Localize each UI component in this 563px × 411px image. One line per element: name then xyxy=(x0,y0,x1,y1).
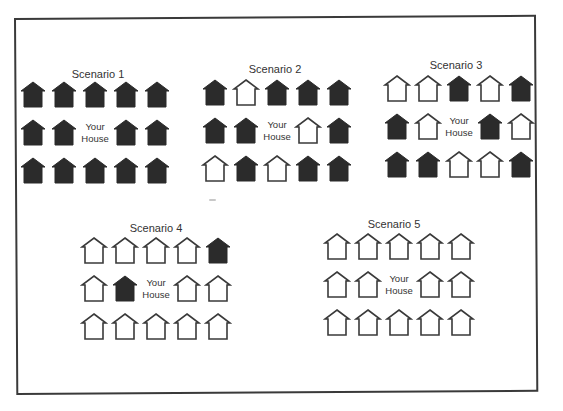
empty-house-icon xyxy=(507,112,535,140)
empty-house-icon xyxy=(142,236,170,264)
empty-house-icon xyxy=(385,308,413,336)
empty-house-icon xyxy=(416,270,444,298)
empty-house-icon xyxy=(323,232,351,260)
filled-house-icon xyxy=(414,150,442,178)
empty-house-icon xyxy=(476,150,504,178)
empty-house-icon xyxy=(416,308,444,336)
empty-house-icon xyxy=(263,154,291,182)
empty-house-icon xyxy=(80,236,108,264)
scenario-title: Scenario 2 xyxy=(249,63,302,75)
filled-house-icon xyxy=(294,154,322,182)
scenario-title: Scenario 1 xyxy=(72,68,125,80)
empty-house-icon xyxy=(445,150,473,178)
empty-house-icon xyxy=(354,232,382,260)
filled-house-icon xyxy=(325,154,353,182)
filled-house-icon xyxy=(143,118,171,146)
empty-house-icon xyxy=(447,308,475,336)
scenario-title: Scenario 3 xyxy=(430,59,483,71)
filled-house-icon xyxy=(232,116,260,144)
filled-house-icon xyxy=(111,274,139,302)
filled-house-icon xyxy=(81,156,109,184)
empty-house-icon xyxy=(173,312,201,340)
your-house-label: YourHouse xyxy=(139,277,173,301)
empty-house-icon xyxy=(111,236,139,264)
empty-house-icon xyxy=(173,274,201,302)
empty-house-icon xyxy=(80,274,108,302)
empty-house-icon xyxy=(201,154,229,182)
filled-house-icon xyxy=(50,156,78,184)
filled-house-icon xyxy=(204,236,232,264)
filled-house-icon xyxy=(325,78,353,106)
your-house-label: YourHouse xyxy=(78,121,112,145)
empty-house-icon xyxy=(385,232,413,260)
empty-house-icon xyxy=(323,308,351,336)
filled-house-icon xyxy=(383,150,411,178)
filled-house-icon xyxy=(50,80,78,108)
empty-house-icon xyxy=(414,112,442,140)
empty-house-icon xyxy=(447,232,475,260)
filled-house-icon xyxy=(112,156,140,184)
filled-house-icon xyxy=(445,74,473,102)
filled-house-icon xyxy=(325,116,353,144)
filled-house-icon xyxy=(201,78,229,106)
filled-house-icon xyxy=(19,156,47,184)
filled-house-icon xyxy=(143,156,171,184)
empty-house-icon xyxy=(476,74,504,102)
filled-house-icon xyxy=(50,118,78,146)
your-house-label: YourHouse xyxy=(442,115,476,139)
empty-house-icon xyxy=(323,270,351,298)
empty-house-icon xyxy=(383,74,411,102)
empty-house-icon xyxy=(111,312,139,340)
empty-house-icon xyxy=(294,116,322,144)
empty-house-icon xyxy=(80,312,108,340)
empty-house-icon xyxy=(354,308,382,336)
empty-house-icon xyxy=(204,274,232,302)
filled-house-icon xyxy=(476,112,504,140)
filled-house-icon xyxy=(294,78,322,106)
empty-house-icon xyxy=(447,270,475,298)
empty-house-icon xyxy=(142,312,170,340)
empty-house-icon xyxy=(173,236,201,264)
filled-house-icon xyxy=(201,116,229,144)
scenario-title: Scenario 5 xyxy=(368,218,421,230)
empty-house-icon xyxy=(204,312,232,340)
empty-house-icon xyxy=(416,232,444,260)
your-house-label: YourHouse xyxy=(260,119,294,143)
filled-house-icon xyxy=(81,80,109,108)
filled-house-icon xyxy=(383,112,411,140)
filled-house-icon xyxy=(112,118,140,146)
filled-house-icon xyxy=(143,80,171,108)
filled-house-icon xyxy=(507,150,535,178)
filled-house-icon xyxy=(19,118,47,146)
empty-house-icon xyxy=(414,74,442,102)
your-house-label: YourHouse xyxy=(382,273,416,297)
empty-house-icon xyxy=(232,78,260,106)
filled-house-icon xyxy=(232,154,260,182)
empty-house-icon xyxy=(354,270,382,298)
filled-house-icon xyxy=(19,80,47,108)
filled-house-icon xyxy=(112,80,140,108)
filled-house-icon xyxy=(507,74,535,102)
filled-house-icon xyxy=(263,78,291,106)
scan-artifact xyxy=(209,199,216,201)
scenario-title: Scenario 4 xyxy=(130,222,183,234)
